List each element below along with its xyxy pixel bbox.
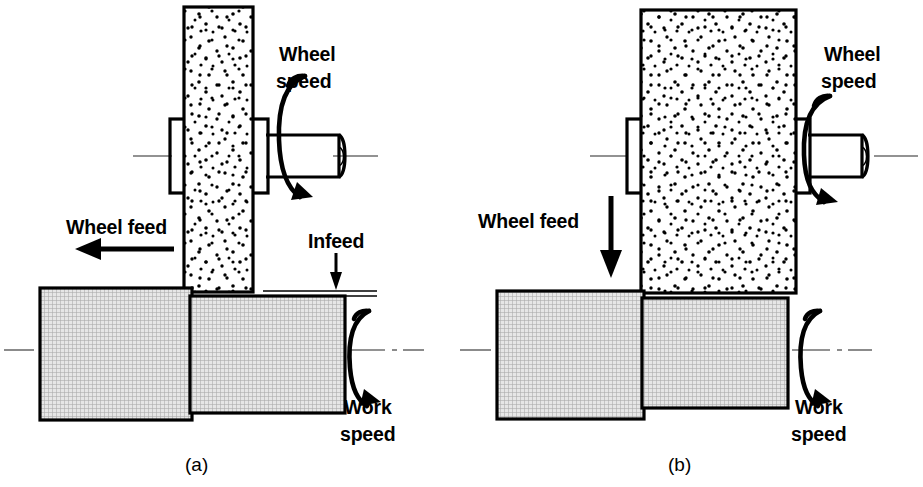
workpiece-right-block-b	[642, 298, 788, 408]
wheel-speed-label-b-line2: speed	[821, 70, 876, 92]
workpiece-left-block-a	[40, 288, 192, 420]
caption-b: (b)	[668, 454, 691, 475]
wheel-feed-label-a: Wheel feed	[66, 216, 167, 238]
panel-a: Wheel speed Wheel feed Infeed Work speed	[4, 7, 424, 445]
figure-canvas: Wheel speed Wheel feed Infeed Work speed	[0, 0, 923, 487]
workpiece-left-block-b	[497, 291, 644, 419]
wheel-feed-label-b: Wheel feed	[478, 210, 579, 232]
work-speed-label-b-line2: speed	[791, 423, 846, 445]
grinding-diagram-svg: Wheel speed Wheel feed Infeed Work speed	[0, 0, 923, 487]
infeed-label-a: Infeed	[308, 230, 364, 252]
wheel-speed-label-a-line1: Wheel	[279, 43, 335, 65]
grinding-wheel-a	[184, 7, 253, 292]
caption-a: (a)	[185, 454, 208, 475]
panel-b: Wheel speed Wheel feed Work speed	[460, 10, 918, 445]
spindle-shaft-b	[808, 135, 868, 177]
workpiece-right-block-a	[190, 296, 345, 413]
grinding-wheel-b	[641, 10, 796, 293]
wheel-speed-rotation-arrow-a	[279, 76, 313, 200]
work-speed-label-b-line1: Work	[795, 396, 843, 418]
work-speed-label-a-line1: Work	[344, 396, 392, 418]
wheel-speed-label-b-line1: Wheel	[824, 43, 880, 65]
work-speed-label-a-line2: speed	[340, 423, 395, 445]
work-speed-rotation-arrow-a	[349, 311, 381, 406]
work-speed-rotation-arrow-b	[800, 311, 832, 406]
wheel-feed-arrow-b	[600, 196, 622, 278]
wheel-speed-label-a-line2: speed	[276, 70, 331, 92]
wheel-feed-arrow-a	[75, 238, 174, 260]
